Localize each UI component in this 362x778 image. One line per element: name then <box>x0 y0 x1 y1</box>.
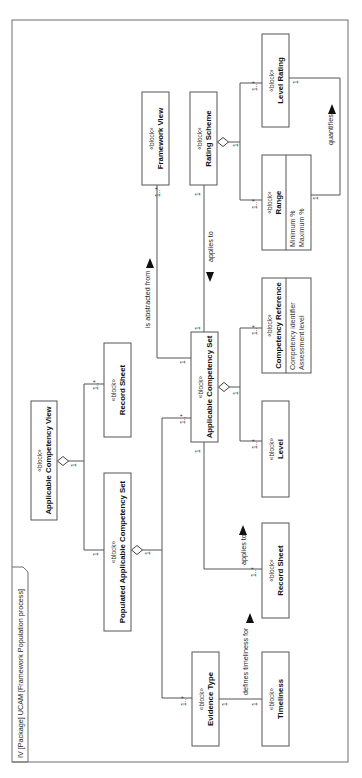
block-applicable-competency-view[interactable]: «block»Applicable Competency View <box>31 401 57 520</box>
association-label: applies to <box>206 231 215 262</box>
block-name: Range <box>274 190 283 214</box>
connector-acs-to-level <box>240 387 262 441</box>
multiplicity: 1 <box>221 702 228 706</box>
block-name: Competency Reference <box>274 282 283 369</box>
direction-arrow-icon <box>328 104 336 114</box>
multiplicity: 1 <box>232 391 239 395</box>
multiplicity: 1 <box>194 192 201 196</box>
multiplicity: 1..* <box>251 199 258 209</box>
block-evidence-type[interactable]: «block»Evidence Type <box>192 652 219 746</box>
block-stereotype: «block» <box>110 378 117 401</box>
multiplicity: 1 <box>312 196 319 200</box>
blocks: «block»Applicable Competency View«block»… <box>31 34 311 746</box>
diagram-title: IV [Package] UCAM [Framework Population … <box>16 589 25 758</box>
block-stereotype: «block» <box>266 191 273 214</box>
direction-arrow-icon <box>146 258 154 268</box>
frame-border <box>12 20 348 762</box>
block-name: Framework View <box>156 107 165 169</box>
block-level[interactable]: «block»Level <box>262 401 289 497</box>
direction-arrow-icon <box>239 525 247 535</box>
block-name: Timeliness <box>276 678 285 719</box>
block-name: Level <box>276 439 285 459</box>
association-label: applies to <box>239 534 248 565</box>
block-name: Evidence Type <box>206 671 215 726</box>
multiplicity: 1..* <box>180 696 187 706</box>
block-name: Record Sheet <box>276 545 285 596</box>
association-label: defines timeliness for <box>241 627 250 695</box>
block-name: Applicable Competency Set <box>205 335 214 438</box>
multiplicity: 1..* <box>92 380 99 390</box>
block-definition-diagram: IV [Package] UCAM [Framework Population … <box>0 0 362 778</box>
multiplicity: 1 <box>194 449 201 453</box>
connector-acv-to-record-sheet <box>68 384 104 461</box>
package-frame: IV [Package] UCAM [Framework Population … <box>12 20 348 762</box>
block-stereotype: «block» <box>266 314 273 337</box>
connector-populated-acs-to-evidence-type <box>162 550 192 698</box>
multiplicity: 1 <box>179 360 186 364</box>
multiplicity: 1 <box>194 326 201 330</box>
association-label: quantifies <box>326 114 335 145</box>
aggregation-diamond-icon <box>58 457 69 466</box>
block-name: Rating Scheme <box>204 110 213 167</box>
block-rating-scheme[interactable]: «block»Rating Scheme <box>190 92 217 185</box>
block-framework-view[interactable]: «block»Framework View <box>142 92 169 185</box>
multiplicity: 1 <box>251 702 258 706</box>
connector-populated-acs-to-acs <box>142 418 191 550</box>
multiplicity: 1..* <box>251 81 258 91</box>
block-stereotype: «block» <box>268 687 275 710</box>
block-attribute: Maximum % <box>298 208 305 247</box>
block-record-sheet-top[interactable]: «block»Record Sheet <box>104 343 131 437</box>
multiplicity: 1..* <box>251 325 258 335</box>
label-applies-to-rating: applies to <box>206 231 215 282</box>
block-stereotype: «block» <box>196 127 203 150</box>
multiplicity: 1 <box>232 143 239 147</box>
block-timeliness[interactable]: «block»Timeliness <box>262 652 289 746</box>
direction-arrow-icon <box>206 272 214 282</box>
multiplicity: 1..* <box>251 439 258 449</box>
multiplicity: 1 <box>292 80 299 84</box>
label-quantifies: quantifies <box>326 104 336 145</box>
block-stereotype: «block» <box>36 449 43 472</box>
block-name: Applicable Competency View <box>44 405 53 514</box>
block-applicable-competency-set[interactable]: «block»Applicable Competency Set <box>191 332 218 442</box>
block-stereotype: «block» <box>198 687 205 710</box>
multiplicity: 1..* <box>154 187 161 197</box>
block-stereotype: «block» <box>268 559 275 582</box>
label-applies-to-record-sheet: applies to <box>239 525 248 565</box>
connector-acv-to-populated-acs <box>84 461 104 550</box>
multiplicity: 1 <box>70 463 77 467</box>
block-name: Populated Applicable Competency Set <box>118 480 127 623</box>
block-stereotype: «block» <box>268 437 275 460</box>
block-populated-applicable-competency-set[interactable]: «block»Populated Applicable Competency S… <box>104 473 131 631</box>
block-attribute: Minimum % <box>289 210 296 247</box>
multiplicity: 1..* <box>250 567 257 577</box>
block-range[interactable]: «block»RangeMinimum %Maximum % <box>262 155 311 250</box>
block-attribute: Competency identifier <box>289 302 297 370</box>
block-competency-reference[interactable]: «block»Competency ReferenceCompetency id… <box>262 278 311 373</box>
connector-rating-scheme-to-range <box>240 142 262 200</box>
association-label: is abstracted from <box>143 271 152 328</box>
block-stereotype: «block» <box>197 375 204 398</box>
label-defines-timeliness-for: defines timeliness for <box>241 613 254 695</box>
label-is-abstracted-from: is abstracted from <box>143 258 154 328</box>
multiplicity: 1 <box>92 552 99 556</box>
connector-acs-to-competency-reference <box>229 328 262 387</box>
block-attribute: Assessment level <box>298 315 305 370</box>
block-stereotype: «block» <box>268 69 275 92</box>
block-stereotype: «block» <box>110 540 117 563</box>
multiplicity: 1..* <box>179 414 186 424</box>
block-stereotype: «block» <box>148 127 155 150</box>
block-level-rating[interactable]: «block»Level Rating <box>262 34 289 127</box>
direction-arrow-icon <box>246 613 254 623</box>
block-name: Record Sheet <box>118 364 127 415</box>
aggregation-diamond-icon <box>132 546 143 555</box>
connector-acs-to-framework-view <box>157 185 191 358</box>
block-name: Level Rating <box>276 57 285 104</box>
connector-acs-to-record-sheet-bottom <box>204 442 262 569</box>
multiplicity: 1 <box>144 551 151 555</box>
aggregation-diamond-icon <box>219 383 230 392</box>
block-record-sheet-bottom[interactable]: «block»Record Sheet <box>262 523 289 618</box>
aggregation-diamond-icon <box>218 138 229 147</box>
